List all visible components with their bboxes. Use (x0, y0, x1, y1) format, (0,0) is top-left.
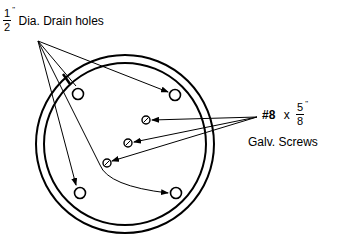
drain-holes-text: Dia. Drain holes (18, 15, 103, 27)
screws-material-label: Galv. Screws (248, 136, 318, 148)
screw-hole (142, 116, 150, 124)
drain-holes-label: 1" 2 Dia. Drain holes (3, 8, 104, 33)
drain-hole (170, 90, 181, 101)
drain-hole (171, 188, 182, 199)
drain-hole (75, 188, 86, 199)
screw-hole (103, 159, 111, 167)
screw-size: #8 (262, 109, 275, 121)
drain-fraction: 1" 2 (3, 8, 11, 33)
screw-times: x (284, 109, 290, 121)
screws-spec-label: #8 x 5" 8 (262, 102, 304, 127)
screw-hole (124, 139, 132, 147)
screw-leader-arrows (112, 117, 257, 161)
drain-hole (73, 89, 84, 100)
screw-fraction: 5" 8 (296, 102, 304, 127)
